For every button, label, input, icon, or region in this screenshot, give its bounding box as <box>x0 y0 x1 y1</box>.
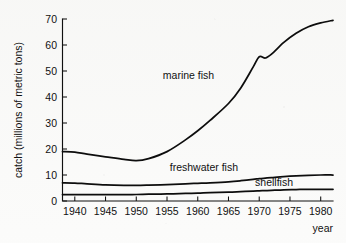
y-tick-label: 30 <box>45 117 57 129</box>
chart-figure: 010203040506070 194019451950195519601965… <box>0 0 346 243</box>
y-tick-label: 50 <box>45 65 57 77</box>
y-tick-label: 10 <box>45 169 57 181</box>
y-axis-tick-group: 010203040506070 <box>45 13 67 207</box>
x-tick-label: 1945 <box>94 205 118 217</box>
x-axis-title: year <box>313 222 334 234</box>
x-tick-label: 1955 <box>155 205 179 217</box>
y-tick-label: 70 <box>45 13 57 25</box>
y-tick-label: 60 <box>45 39 57 51</box>
series-label-marine-fish: marine fish <box>163 69 215 81</box>
y-tick-label: 0 <box>51 195 57 207</box>
x-tick-label: 1980 <box>309 205 333 217</box>
series-label-freshwater-fish: freshwater fish <box>170 161 238 173</box>
line-chart: 010203040506070 194019451950195519601965… <box>0 0 346 243</box>
x-axis-tick-group: 194019451950195519601965197019751980 <box>63 197 332 217</box>
y-tick-label: 40 <box>45 91 57 103</box>
x-tick-label: 1950 <box>125 205 149 217</box>
series-label-shellfish: shellfish <box>255 176 293 188</box>
y-tick-label: 20 <box>45 143 57 155</box>
series-label-group: marine fishfreshwater fishshellfish <box>163 69 293 188</box>
y-axis-title: catch (millions of metric tons) <box>12 42 24 178</box>
x-tick-label: 1975 <box>278 205 302 217</box>
x-tick-label: 1965 <box>217 205 241 217</box>
x-tick-label: 1960 <box>186 205 210 217</box>
x-tick-label: 1970 <box>248 205 272 217</box>
axis-frame <box>63 19 334 201</box>
series-line-shellfish <box>63 189 334 194</box>
x-tick-label: 1940 <box>63 205 87 217</box>
axis-lines <box>63 19 334 201</box>
series-line-marine-fish <box>63 20 334 160</box>
